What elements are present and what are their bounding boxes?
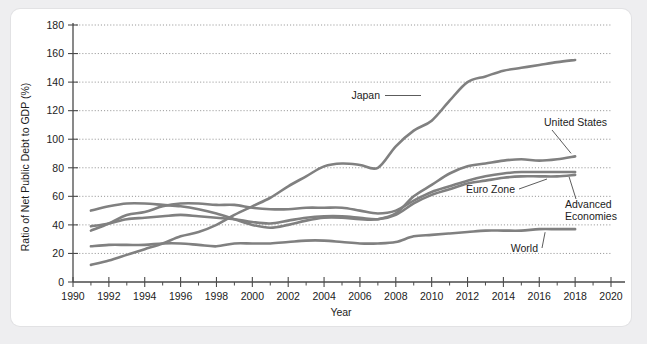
y-tick-label-160: 160 — [46, 47, 64, 59]
x-tick-label-1998: 1998 — [205, 290, 229, 302]
x-tick-label-2008: 2008 — [384, 290, 408, 302]
leader-line-united-states — [552, 130, 571, 153]
x-tick-label-1990: 1990 — [61, 290, 85, 302]
grid-lines — [73, 25, 611, 253]
x-axis-title: Year — [330, 306, 352, 318]
x-tick-label-2004: 2004 — [312, 290, 336, 302]
series-label-euro-zone: Euro Zone — [466, 183, 515, 195]
y-tick-label-100: 100 — [46, 133, 64, 145]
x-tick-label-2018: 2018 — [563, 290, 587, 302]
series-label-advanced-economies-2: Economies — [565, 210, 617, 222]
x-tick-label-2002: 2002 — [277, 290, 301, 302]
y-axis: 020406080100120140160180 — [46, 19, 78, 288]
series-line-japan — [91, 60, 575, 265]
leader-line-world — [542, 232, 545, 248]
y-tick-label-140: 140 — [46, 76, 64, 88]
series-label-japan: Japan — [351, 89, 380, 101]
debt-to-gdp-line-chart: 020406080100120140160180 199019921994199… — [11, 9, 631, 326]
y-tick-label-40: 40 — [52, 219, 64, 231]
chart-card: 020406080100120140160180 199019921994199… — [11, 9, 631, 326]
x-axis: 1990199219941996199820002002200420062008… — [61, 277, 625, 302]
x-tick-label-2020: 2020 — [599, 290, 623, 302]
y-tick-label-80: 80 — [52, 162, 64, 174]
x-tick-label-2000: 2000 — [241, 290, 265, 302]
series-label-united-states: United States — [544, 116, 607, 128]
x-tick-label-2012: 2012 — [456, 290, 480, 302]
series-label-advanced-economies: Advanced — [565, 198, 612, 210]
series-line-world — [91, 229, 575, 246]
leader-line-advanced-economies — [569, 177, 576, 199]
x-tick-label-1992: 1992 — [97, 290, 121, 302]
page-root: 020406080100120140160180 199019921994199… — [0, 0, 647, 344]
y-axis-title: Ratio of Net Public Debt to GDP (%) — [19, 83, 31, 251]
series-label-world: World — [511, 242, 538, 254]
x-tick-label-2010: 2010 — [420, 290, 444, 302]
x-tick-label-2014: 2014 — [492, 290, 516, 302]
x-tick-label-2016: 2016 — [528, 290, 552, 302]
y-tick-label-0: 0 — [58, 276, 64, 288]
y-tick-label-20: 20 — [52, 247, 64, 259]
y-tick-label-180: 180 — [46, 19, 64, 31]
y-tick-label-120: 120 — [46, 104, 64, 116]
data-series-group — [91, 60, 575, 265]
series-line-euro-zone — [91, 172, 575, 231]
y-tick-label-60: 60 — [52, 190, 64, 202]
x-tick-label-1996: 1996 — [169, 290, 193, 302]
x-tick-label-2006: 2006 — [348, 290, 372, 302]
x-tick-label-1994: 1994 — [133, 290, 157, 302]
leader-line-euro-zone — [519, 179, 547, 189]
series-annotations: JapanUnited StatesEuro ZoneAdvancedEcono… — [351, 89, 617, 254]
